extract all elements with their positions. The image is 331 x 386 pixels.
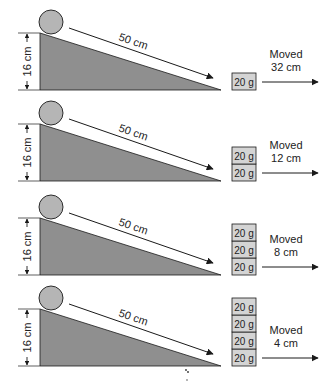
mass-block: 20 g [232,258,256,275]
mass-block: 20 g [232,224,256,241]
ramp-length-label: 50 cm [117,307,149,328]
ramp-height-label: 16 cm [21,138,33,168]
mass-block-label: 20 g [234,77,253,88]
ball [39,101,63,125]
ramp-length-label: 50 cm [117,31,149,52]
mass-block-label: 20 g [234,336,253,347]
mass-block-label: 20 g [234,262,253,273]
ramp-height-label: 16 cm [21,232,33,262]
ramp-length-label: 50 cm [117,216,149,237]
stray-marks [185,369,189,381]
moved-distance: 32 cm [271,61,301,73]
mass-block-label: 20 g [234,228,253,239]
ball [39,195,63,219]
trial-panel-4: 50 cm16 cm20 g20 g20 g20 gMoved4 cm [18,286,318,366]
trial-panel-3: 50 cm16 cm20 g20 g20 gMoved8 cm [18,195,318,275]
mass-block-label: 20 g [234,168,253,179]
trial-panel-2: 50 cm16 cm20 g20 gMoved12 cm [18,101,318,181]
mass-block-label: 20 g [234,319,253,330]
moved-label: Moved [269,324,302,336]
mass-block: 20 g [232,147,256,164]
mass-block: 20 g [232,349,256,366]
mass-block: 20 g [232,332,256,349]
mass-block: 20 g [232,315,256,332]
ramp-experiment-diagram: 50 cm16 cm20 gMoved32 cm50 cm16 cm20 g20… [0,0,331,386]
moved-label: Moved [269,233,302,245]
mass-block: 20 g [232,298,256,315]
mass-block-label: 20 g [234,353,253,364]
ramp-length-label: 50 cm [117,122,149,143]
mass-block: 20 g [232,73,256,90]
moved-distance: 12 cm [271,152,301,164]
moved-label: Moved [269,48,302,60]
ramp-height-label: 16 cm [21,323,33,353]
moved-label: Moved [269,139,302,151]
trial-panel-1: 50 cm16 cm20 gMoved32 cm [18,10,318,90]
mass-block-label: 20 g [234,302,253,313]
mass-block: 20 g [232,241,256,258]
moved-distance: 4 cm [274,337,298,349]
ball [39,10,63,34]
ball [39,286,63,310]
moved-distance: 8 cm [274,246,298,258]
mass-block: 20 g [232,164,256,181]
mass-block-label: 20 g [234,245,253,256]
mass-block-label: 20 g [234,151,253,162]
ramp-height-label: 16 cm [21,47,33,77]
